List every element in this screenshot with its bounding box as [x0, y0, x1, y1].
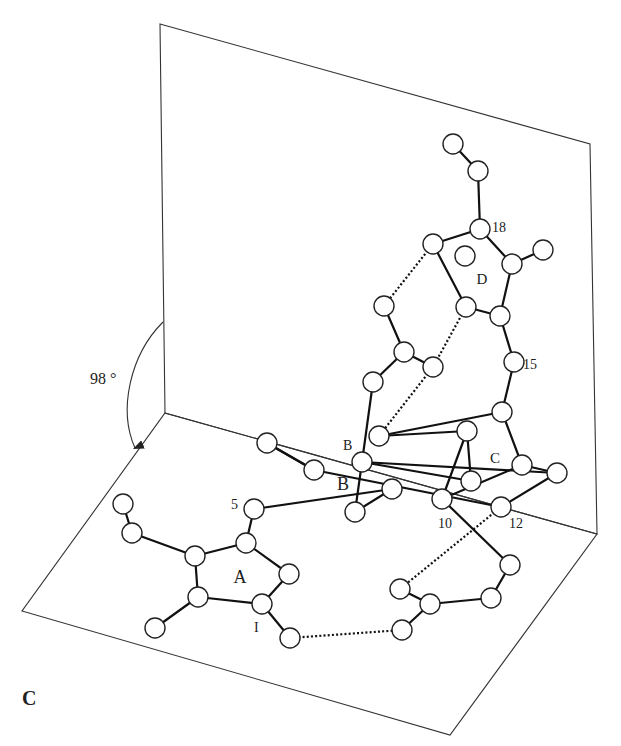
- angle-arc-arrow: [127, 322, 163, 448]
- atom: [244, 499, 264, 519]
- atom: [185, 546, 205, 566]
- ring-label: C: [490, 450, 500, 466]
- bond: [362, 382, 373, 462]
- atom: [122, 523, 142, 543]
- ring-label: A: [234, 567, 247, 587]
- atom: [188, 587, 208, 607]
- figure-canvas: 98 ° ABCD181510125BI C: [0, 0, 621, 746]
- atom: [432, 489, 452, 509]
- atom: [236, 533, 256, 553]
- atom: [512, 455, 532, 475]
- atom: [390, 579, 410, 599]
- atom-number-label: 18: [492, 220, 506, 235]
- vertical-plane: [160, 24, 597, 534]
- atom: [423, 234, 443, 254]
- panel-label: C: [22, 687, 36, 709]
- atom: [491, 497, 511, 517]
- atom: [461, 471, 481, 491]
- atom: [304, 460, 324, 480]
- hydrogen-bond: [379, 367, 433, 436]
- atom-number-label: 15: [523, 357, 537, 372]
- atom: [423, 357, 443, 377]
- atom: [502, 254, 522, 274]
- atom: [369, 426, 389, 446]
- angle-label: 98 °: [90, 370, 116, 387]
- atom: [500, 555, 520, 575]
- atom-number-label: 10: [438, 516, 452, 531]
- atom: [280, 628, 300, 648]
- atom: [392, 620, 412, 640]
- atoms: [113, 134, 567, 648]
- atom: [252, 594, 272, 614]
- atom-number-label: 12: [509, 516, 523, 531]
- atom: [279, 564, 299, 584]
- atom: [394, 342, 414, 362]
- ring-label: D: [477, 271, 488, 287]
- atom: [145, 618, 165, 638]
- ring-label: B: [337, 474, 349, 494]
- atom: [504, 352, 524, 372]
- atom: [533, 240, 553, 260]
- atom: [443, 134, 463, 154]
- atom-number-label: B: [343, 438, 352, 453]
- atom: [420, 594, 440, 614]
- atom-number-label: I: [254, 620, 259, 635]
- atom: [457, 421, 477, 441]
- atom: [456, 297, 476, 317]
- bond: [254, 489, 392, 509]
- hydrogen-bond: [384, 244, 433, 306]
- atom: [374, 296, 394, 316]
- atom: [352, 452, 372, 472]
- atom: [547, 463, 567, 483]
- atom: [363, 372, 383, 392]
- atom: [113, 494, 133, 514]
- atom-number-label: 5: [231, 497, 238, 512]
- molecular-geometry-figure: 98 ° ABCD181510125BI C: [0, 0, 621, 746]
- atom: [468, 161, 488, 181]
- atom: [481, 588, 501, 608]
- hydrogen-bond: [290, 630, 402, 638]
- atom: [382, 479, 402, 499]
- atom: [470, 219, 490, 239]
- atom: [455, 246, 475, 266]
- atom: [490, 306, 510, 326]
- atom: [257, 433, 277, 453]
- atom: [492, 402, 512, 422]
- atom: [345, 502, 365, 522]
